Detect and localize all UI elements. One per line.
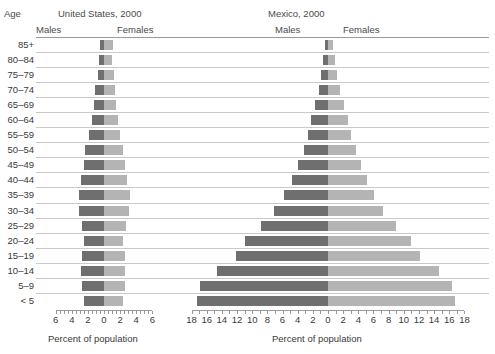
pyramid-row: 70–74 bbox=[0, 82, 495, 97]
bar-females bbox=[104, 55, 112, 65]
bar-females bbox=[328, 130, 351, 140]
age-group-label: 15–19 bbox=[0, 250, 34, 261]
bar-females bbox=[328, 190, 374, 200]
row-gridline bbox=[36, 82, 489, 83]
bar-males bbox=[94, 100, 104, 110]
row-gridline bbox=[36, 67, 489, 68]
bar-males bbox=[81, 266, 104, 276]
bar-females bbox=[104, 251, 125, 261]
row-gridline bbox=[36, 248, 489, 249]
legend-label-us-females: Females bbox=[117, 24, 153, 35]
pyramid-row: 25–29 bbox=[0, 218, 495, 233]
age-group-label: < 5 bbox=[0, 295, 34, 306]
bar-females bbox=[104, 175, 127, 185]
bar-females bbox=[104, 266, 125, 276]
pyramid-row: 45–49 bbox=[0, 157, 495, 172]
row-gridline bbox=[36, 97, 489, 98]
bar-males bbox=[274, 206, 328, 216]
bar-females bbox=[328, 206, 383, 216]
row-gridline bbox=[36, 293, 489, 294]
bar-females bbox=[104, 85, 115, 95]
age-group-label: 35–39 bbox=[0, 189, 34, 200]
bar-males bbox=[92, 115, 104, 125]
bar-females bbox=[104, 221, 126, 231]
pyramid-row: < 5 bbox=[0, 293, 495, 308]
bar-males bbox=[89, 130, 104, 140]
population-pyramid-figure: Age United States, 2000 Mexico, 2000 Mal… bbox=[0, 0, 495, 354]
pyramid-row: 80–84 bbox=[0, 52, 495, 67]
bar-females bbox=[104, 160, 125, 170]
bar-males bbox=[304, 145, 328, 155]
row-gridline bbox=[36, 187, 489, 188]
bar-females bbox=[328, 115, 348, 125]
bar-males bbox=[321, 70, 328, 80]
bar-females bbox=[104, 70, 114, 80]
age-group-label: 45–49 bbox=[0, 159, 34, 170]
bar-males bbox=[82, 251, 104, 261]
row-gridline bbox=[36, 52, 489, 53]
bar-females bbox=[104, 206, 129, 216]
age-group-label: 5–9 bbox=[0, 280, 34, 291]
pyramid-row: 60–64 bbox=[0, 112, 495, 127]
axis-tick-label: 6 bbox=[142, 314, 162, 325]
bar-males bbox=[261, 221, 328, 231]
pyramid-row: 65–69 bbox=[0, 97, 495, 112]
bar-females bbox=[328, 145, 356, 155]
bar-females bbox=[328, 175, 367, 185]
panel-title-mexico: Mexico, 2000 bbox=[268, 8, 325, 19]
age-group-label: 10–14 bbox=[0, 265, 34, 276]
age-group-label: 40–44 bbox=[0, 174, 34, 185]
age-column-header: Age bbox=[4, 8, 21, 19]
age-group-label: 70–74 bbox=[0, 84, 34, 95]
bar-males bbox=[245, 236, 328, 246]
pyramid-rows: 85+80–8475–7970–7465–6960–6455–5950–5445… bbox=[0, 37, 495, 308]
bar-females bbox=[104, 281, 125, 291]
bar-males bbox=[217, 266, 328, 276]
pyramid-row: 55–59 bbox=[0, 127, 495, 142]
bar-males bbox=[236, 251, 328, 261]
pyramid-row: 35–39 bbox=[0, 187, 495, 202]
age-group-label: 80–84 bbox=[0, 54, 34, 65]
legend-label-mexico-males: Males bbox=[275, 24, 300, 35]
axis-title-mexico: Percent of population bbox=[272, 333, 362, 344]
age-group-label: 30–34 bbox=[0, 205, 34, 216]
bar-females bbox=[328, 100, 344, 110]
age-group-label: 50–54 bbox=[0, 144, 34, 155]
bar-males bbox=[298, 160, 328, 170]
age-group-label: 85+ bbox=[0, 39, 34, 50]
bar-males bbox=[79, 206, 104, 216]
pyramid-row: 40–44 bbox=[0, 172, 495, 187]
bar-males bbox=[81, 175, 104, 185]
age-group-label: 55–59 bbox=[0, 129, 34, 140]
bar-males bbox=[79, 190, 104, 200]
bar-males bbox=[311, 115, 328, 125]
bar-females bbox=[104, 145, 123, 155]
row-gridline bbox=[36, 278, 489, 279]
bar-males bbox=[200, 281, 328, 291]
age-group-label: 20–24 bbox=[0, 235, 34, 246]
bar-females bbox=[328, 55, 335, 65]
bar-females bbox=[328, 296, 455, 306]
age-group-label: 60–64 bbox=[0, 114, 34, 125]
bar-males bbox=[284, 190, 328, 200]
bar-females bbox=[328, 281, 452, 291]
bar-females bbox=[328, 70, 337, 80]
bar-females bbox=[328, 160, 361, 170]
pyramid-row: 10–14 bbox=[0, 263, 495, 278]
bar-females bbox=[328, 85, 340, 95]
row-gridline bbox=[36, 157, 489, 158]
bar-males bbox=[197, 296, 328, 306]
bar-males bbox=[84, 160, 104, 170]
row-gridline bbox=[36, 218, 489, 219]
bar-females bbox=[328, 221, 396, 231]
row-gridline bbox=[36, 112, 489, 113]
legend-label-us-males: Males bbox=[36, 24, 61, 35]
bar-males bbox=[84, 296, 104, 306]
bar-females bbox=[104, 130, 120, 140]
bar-males bbox=[82, 281, 104, 291]
bar-females bbox=[328, 251, 420, 261]
pyramid-row: 50–54 bbox=[0, 142, 495, 157]
row-gridline bbox=[36, 37, 489, 38]
bar-males bbox=[84, 236, 104, 246]
pyramid-row: 30–34 bbox=[0, 203, 495, 218]
